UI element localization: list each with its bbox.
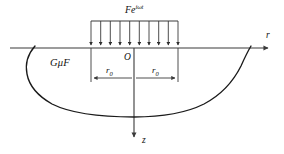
diagram-canvas: [0, 0, 284, 154]
radius-label-left-sub: 0: [110, 70, 113, 77]
load-label-base: Fe: [125, 4, 136, 15]
origin-label: O: [124, 53, 131, 63]
medium-label: GμF: [50, 58, 70, 69]
load-label: Feiωt: [125, 4, 143, 15]
load-label-exponent: iωt: [136, 3, 144, 10]
radius-label-left: r0: [106, 66, 113, 77]
r-axis-label: r: [266, 31, 270, 41]
radius-label-right: r0: [152, 66, 159, 77]
z-axis-label: z: [142, 136, 146, 146]
radius-label-right-sub: 0: [156, 70, 159, 77]
figure-container: Feiωt GμF O r0 r0 r z: [0, 0, 284, 154]
load-distribution: [91, 21, 178, 45]
